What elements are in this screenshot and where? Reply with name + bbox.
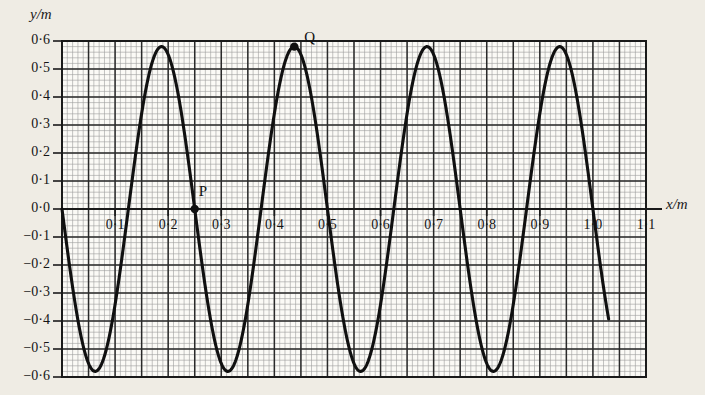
y-tick-label: −0·6 [8, 368, 50, 384]
x-tick-label: 0·9 [520, 217, 560, 233]
waveform-figure: y/m x/m 0·60·50·40·30·20·10·0−0·1−0·2−0·… [0, 0, 705, 395]
x-tick-label: 0·4 [254, 217, 294, 233]
y-tick-label: 0·1 [8, 172, 50, 188]
y-tick-label: −0·5 [8, 340, 50, 356]
y-tick-label: 0·0 [8, 200, 50, 216]
x-tick-label: 0·5 [307, 217, 347, 233]
y-tick-label: −0·1 [8, 228, 50, 244]
point-q-label: Q [304, 29, 315, 46]
x-tick-label: 0·1 [95, 217, 135, 233]
wave-plot-area [0, 0, 705, 395]
y-tick-label: 0·5 [8, 60, 50, 76]
point-q-marker [290, 42, 298, 50]
y-tick-label: 0·2 [8, 144, 50, 160]
x-tick-label: 0·7 [414, 217, 454, 233]
y-tick-label: 0·4 [8, 88, 50, 104]
x-tick-label: 0·8 [467, 217, 507, 233]
x-tick-label: 0·6 [361, 217, 401, 233]
x-tick-label: 0·3 [201, 217, 241, 233]
y-tick-label: −0·2 [8, 256, 50, 272]
y-tick-label: −0·3 [8, 284, 50, 300]
y-tick-label: −0·4 [8, 312, 50, 328]
x-tick-label: 0·2 [148, 217, 188, 233]
y-tick-label: 0·3 [8, 116, 50, 132]
point-p-label: P [199, 183, 207, 200]
y-tick-label: 0·6 [8, 32, 50, 48]
x-tick-label: 1·0 [573, 217, 613, 233]
point-p-marker [191, 205, 199, 213]
x-tick-label: 1·1 [626, 217, 666, 233]
